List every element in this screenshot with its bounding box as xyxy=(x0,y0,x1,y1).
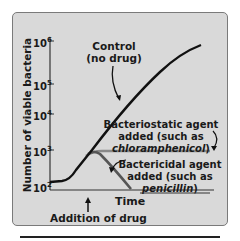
bactericidal-sublabel: added (such as xyxy=(127,171,212,182)
tick-label-1e6: 106 xyxy=(33,36,52,49)
x-axis-label: Time xyxy=(115,195,145,208)
bactericidal-example: penicillin) xyxy=(141,183,198,194)
tick-label-1e3: 103 xyxy=(33,145,52,158)
growth-chart: Number of viable bacteria 106 105 104 10… xyxy=(0,0,240,241)
control-arrowhead-icon xyxy=(116,95,121,101)
bactericidal-label: Bactericidal agent xyxy=(119,159,222,170)
bacteriostatic-arrowhead-icon xyxy=(211,146,217,151)
bottom-rule xyxy=(20,236,220,238)
bacteriostatic-example: chloramphenicol) xyxy=(112,143,210,154)
control-pointer-arrow-icon xyxy=(112,66,119,99)
drug-addition-label: Addition of drug xyxy=(50,212,147,224)
y-axis-label: Number of viable bacteria xyxy=(21,38,33,192)
bacteriostatic-pointer-icon xyxy=(213,131,217,148)
tick-label-1e2: 102 xyxy=(33,181,52,194)
control-sublabel: (no drug) xyxy=(86,52,142,64)
control-label: Control xyxy=(92,40,135,52)
drug-addition-arrowhead-icon xyxy=(85,197,91,203)
tick-label-1e5: 105 xyxy=(33,79,52,92)
bacteriostatic-sublabel: added (such as xyxy=(118,131,203,142)
bacteriostatic-label: Bacteriostatic agent xyxy=(104,119,219,130)
tick-label-1e4: 104 xyxy=(33,109,52,122)
bactericidal-curve xyxy=(88,152,131,189)
